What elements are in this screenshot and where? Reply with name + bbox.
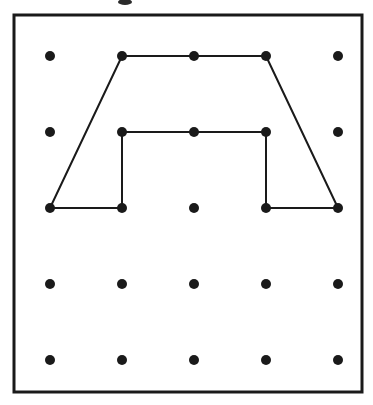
peg-dot[interactable] (333, 279, 343, 289)
peg-dot[interactable] (333, 51, 343, 61)
peg-dot[interactable] (261, 279, 271, 289)
peg-dot[interactable] (189, 203, 199, 213)
peg-dot[interactable] (189, 279, 199, 289)
peg-dot[interactable] (117, 355, 127, 365)
peg-dot[interactable] (45, 279, 55, 289)
peg-dot[interactable] (45, 355, 55, 365)
geoboard-figure (0, 0, 373, 405)
peg-dot[interactable] (45, 51, 55, 61)
top-edge-smudge-artifact (118, 0, 132, 5)
peg-dot[interactable] (333, 355, 343, 365)
board-frame-rect (14, 15, 362, 392)
peg-dot[interactable] (333, 127, 343, 137)
peg-dot[interactable] (261, 355, 271, 365)
peg-dot[interactable] (117, 279, 127, 289)
peg-dot[interactable] (45, 127, 55, 137)
peg-dot[interactable] (189, 355, 199, 365)
geoboard-canvas (0, 0, 373, 405)
